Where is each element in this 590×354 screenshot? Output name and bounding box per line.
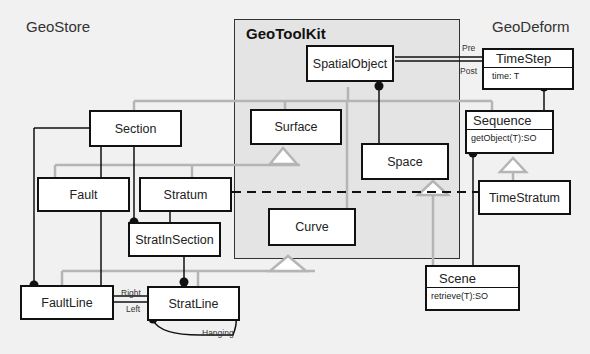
class-curve[interactable]: Curve bbox=[268, 208, 356, 246]
diagram-canvas: GeoStore GeoToolKit GeoDeform SpatialObj… bbox=[0, 0, 590, 354]
role-label-pre: Pre bbox=[462, 43, 475, 53]
class-stratum[interactable]: Stratum bbox=[139, 177, 232, 212]
role-label-left: Left bbox=[126, 304, 140, 314]
package-label-geostore: GeoStore bbox=[26, 18, 90, 35]
package-label-geodeform: GeoDeform bbox=[492, 18, 570, 35]
role-label-right: Right bbox=[121, 288, 141, 298]
class-spatial-object[interactable]: SpatialObject bbox=[306, 45, 394, 82]
class-scene-operation: retrieve(T):SO bbox=[427, 288, 518, 304]
class-time-stratum[interactable]: TimeStratum bbox=[478, 180, 571, 215]
class-scene-name: Scene bbox=[427, 267, 518, 288]
class-sequence[interactable]: Sequence getObject(T):SO bbox=[465, 110, 554, 154]
class-time-step-name: TimeStep bbox=[484, 50, 572, 68]
class-sequence-name: Sequence bbox=[467, 112, 552, 130]
class-section[interactable]: Section bbox=[89, 110, 182, 147]
class-fault[interactable]: Fault bbox=[37, 177, 130, 212]
role-label-post: Post bbox=[460, 66, 477, 76]
package-label-geotoolkit: GeoToolKit bbox=[246, 25, 326, 42]
class-fault-line[interactable]: FaultLine bbox=[20, 285, 114, 320]
class-strat-line[interactable]: StratLine bbox=[147, 286, 240, 321]
class-space[interactable]: Space bbox=[361, 143, 449, 180]
class-surface[interactable]: Surface bbox=[250, 109, 342, 145]
role-label-hanging: Hanging bbox=[202, 328, 234, 338]
class-time-step[interactable]: TimeStep time: T bbox=[482, 48, 574, 90]
class-scene[interactable]: Scene retrieve(T):SO bbox=[425, 265, 520, 311]
class-sequence-operation: getObject(T):SO bbox=[467, 130, 552, 146]
class-strat-in-section[interactable]: StratInSection bbox=[128, 222, 221, 257]
class-time-step-attribute: time: T bbox=[484, 68, 572, 84]
